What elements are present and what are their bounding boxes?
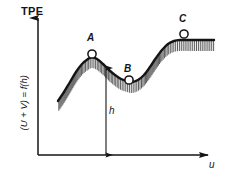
y-axis-label: (U + V) = f(h): [19, 58, 29, 148]
point-label-b: B: [124, 64, 131, 74]
tpe-axis-title: TPE: [21, 6, 43, 17]
point-label-c: C: [179, 14, 186, 24]
point-marker-C: [180, 30, 188, 38]
plot-canvas: [0, 0, 226, 179]
height-label: h: [109, 106, 115, 116]
point-label-a: A: [87, 33, 94, 43]
tpe-energy-figure: TPE (U + V) = f(h) u A B C h: [0, 0, 226, 179]
x-axis-label: u: [209, 160, 215, 170]
point-marker-B: [125, 76, 133, 84]
curve-hatching: [59, 41, 214, 111]
point-marker-A: [88, 50, 96, 58]
